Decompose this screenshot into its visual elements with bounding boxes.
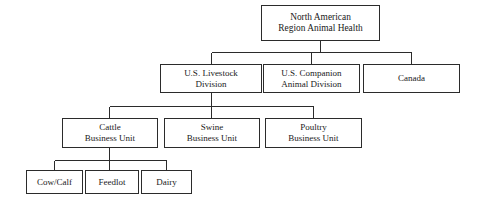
node-label: Cattle Business Unit <box>82 122 138 143</box>
node-cattle-business-unit[interactable]: Cattle Business Unit <box>62 118 158 148</box>
node-poultry-business-unit[interactable]: Poultry Business Unit <box>265 118 362 148</box>
node-dairy[interactable]: Dairy <box>141 170 192 194</box>
node-label: Canada <box>395 73 428 84</box>
org-chart: North American Region Animal Health U.S.… <box>0 0 478 201</box>
node-cow-calf[interactable]: Cow/Calf <box>26 170 83 194</box>
node-label: Cow/Calf <box>34 177 75 188</box>
node-feedlot[interactable]: Feedlot <box>85 170 139 194</box>
node-swine-business-unit[interactable]: Swine Business Unit <box>164 118 260 148</box>
node-north-american-region-animal-health[interactable]: North American Region Animal Health <box>261 5 380 41</box>
node-label: Poultry Business Unit <box>285 122 341 143</box>
node-label: Feedlot <box>96 177 129 188</box>
node-label: Dairy <box>153 177 180 188</box>
node-label: Swine Business Unit <box>184 122 240 143</box>
node-us-livestock-division[interactable]: U.S. Livestock Division <box>160 64 262 93</box>
node-us-companion-animal-division[interactable]: U.S. Companion Animal Division <box>263 64 360 93</box>
node-canada[interactable]: Canada <box>363 64 460 93</box>
node-label: U.S. Companion Animal Division <box>278 68 344 89</box>
node-label: U.S. Livestock Division <box>181 68 241 89</box>
node-label: North American Region Animal Health <box>275 12 365 34</box>
